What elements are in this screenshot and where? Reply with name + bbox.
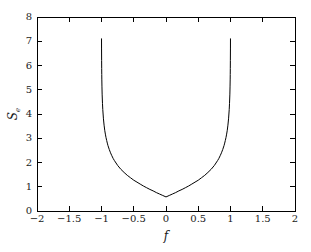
x-tick-label: −1 — [94, 214, 109, 224]
x-axis-label: f — [164, 229, 168, 243]
y-tick-label: 3 — [10, 133, 32, 143]
y-axis-label: Se — [6, 108, 22, 120]
x-tick-label: −1.5 — [57, 214, 81, 224]
axes-frame — [37, 17, 295, 211]
y-axis-label-base: S — [6, 112, 20, 120]
y-tick-label: 5 — [10, 85, 32, 95]
x-tick-label: 0.5 — [190, 214, 206, 224]
y-tick-label: 8 — [10, 12, 32, 22]
figure-container: −2 −1.5 −1 −0.5 0 0.5 1 1.5 2 0 1 2 3 4 … — [0, 0, 311, 252]
x-tick-label: 1 — [227, 214, 233, 224]
y-tick-label: 7 — [10, 36, 32, 46]
x-tick-label: 2 — [292, 214, 298, 224]
x-tick-label: 0 — [163, 214, 169, 224]
y-tick-label: 1 — [10, 182, 32, 192]
y-tick-label: 2 — [10, 158, 32, 168]
y-tick-label: 0 — [10, 206, 32, 216]
x-tick-label: −0.5 — [122, 214, 146, 224]
y-axis-label-subscript: e — [14, 108, 22, 112]
y-tick-label: 6 — [10, 61, 32, 71]
x-tick-label: 1.5 — [255, 214, 271, 224]
